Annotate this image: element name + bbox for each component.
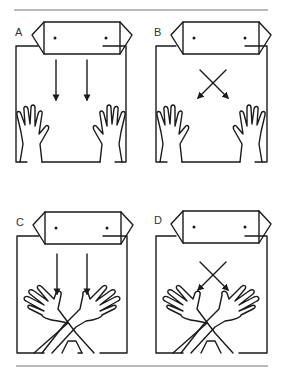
- diagram-canvas: [0, 0, 284, 371]
- arrow-cross-icon: [200, 262, 228, 290]
- panel-d: [156, 211, 271, 353]
- arrow-cross-icon: [200, 70, 228, 98]
- arrow-cross-icon: [198, 70, 226, 98]
- head-icon: [171, 22, 271, 54]
- crossed-hands-icon: [24, 286, 120, 353]
- head-icon: [171, 211, 271, 243]
- right-hand-icon: [233, 105, 265, 162]
- head-icon: [32, 22, 132, 54]
- panel-a: [16, 22, 132, 162]
- panel-b: [156, 22, 271, 162]
- right-hand-icon: [93, 105, 125, 162]
- arrow-cross-icon: [198, 262, 226, 290]
- frame: [16, 46, 126, 162]
- head-icon: [33, 212, 133, 244]
- panel-c: [17, 212, 133, 353]
- frame: [156, 236, 267, 353]
- frame: [17, 236, 127, 353]
- left-hand-icon: [17, 105, 49, 162]
- frame: [156, 46, 267, 162]
- left-hand-icon: [157, 105, 189, 162]
- crossed-hands-icon: [163, 286, 259, 353]
